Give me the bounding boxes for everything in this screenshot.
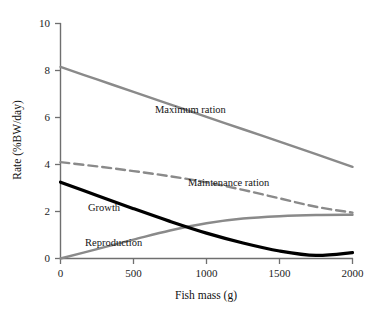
y-tick-label-4: 4 — [45, 158, 51, 170]
y-tick-label-2: 2 — [45, 205, 51, 217]
y-axis-title: Rate (%BW/day) — [11, 100, 24, 180]
x-axis-title: Fish mass (g) — [175, 289, 237, 302]
x-tick-label-0: 0 — [58, 267, 64, 279]
y-tick-label-0: 0 — [45, 252, 51, 264]
curve-label-growth: Growth — [88, 202, 121, 213]
chart-background — [0, 0, 377, 318]
y-tick-label-10: 10 — [39, 17, 51, 29]
y-tick-label-6: 6 — [45, 111, 51, 123]
x-tick-label-2000: 2000 — [342, 267, 365, 279]
curve-label-maintenance-ration: Maintenance ration — [188, 177, 270, 188]
x-tick-label-500: 500 — [125, 267, 142, 279]
line-chart: 0 2 4 6 8 10 0 500 1000 1500 2000 Fish m… — [0, 0, 377, 318]
chart-figure: 0 2 4 6 8 10 0 500 1000 1500 2000 Fish m… — [0, 0, 377, 318]
x-tick-label-1000: 1000 — [196, 267, 219, 279]
curve-label-reproduction: Reproduction — [85, 237, 143, 248]
curve-label-maximum-ration: Maximum ration — [155, 104, 227, 115]
x-tick-label-1500: 1500 — [269, 267, 292, 279]
y-tick-label-8: 8 — [45, 64, 51, 76]
